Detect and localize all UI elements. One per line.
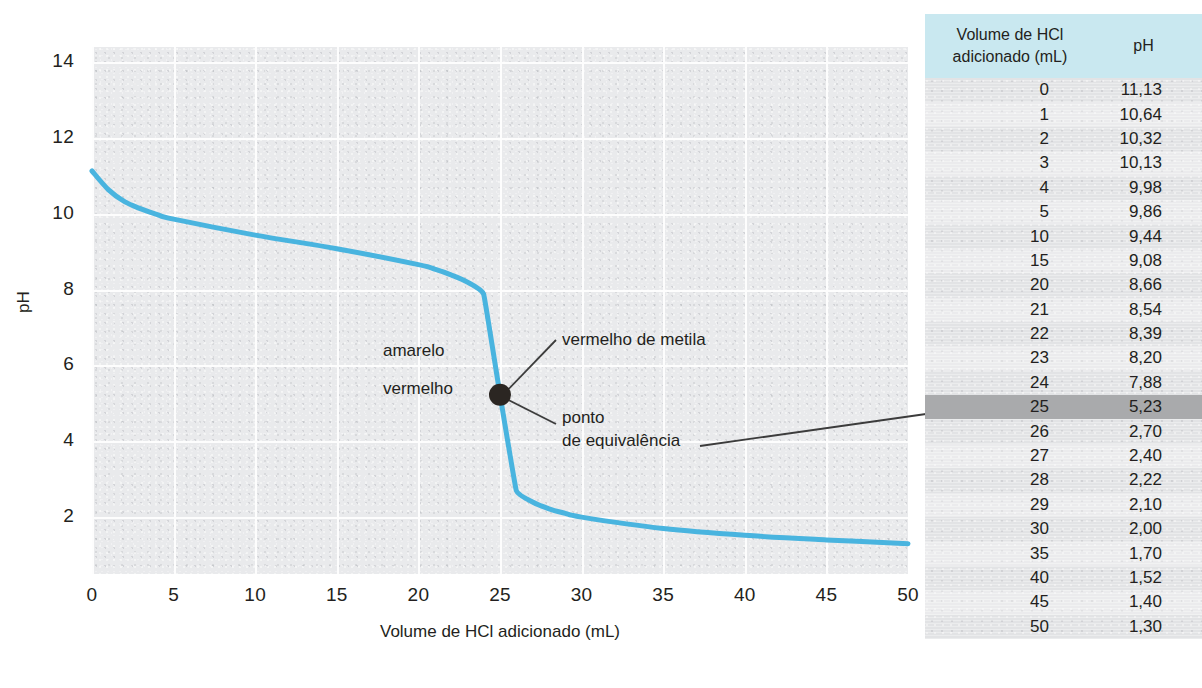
table-cell-ph: 10,13 (1093, 153, 1202, 173)
table-row[interactable]: 59,86 (925, 200, 1202, 224)
table-cell-ph: 9,08 (1093, 251, 1202, 271)
gridline-vertical (582, 47, 584, 574)
table-cell-ph: 2,40 (1093, 446, 1202, 466)
table-row[interactable]: 159,08 (925, 249, 1202, 273)
gridline-vertical (174, 47, 176, 574)
annotation-equivalence-line1: ponto (562, 408, 605, 427)
gridline-vertical (826, 47, 828, 574)
table-row[interactable]: 218,54 (925, 298, 1202, 322)
table-cell-ph: 8,66 (1093, 275, 1202, 295)
table-row[interactable]: 401,52 (925, 566, 1202, 590)
table-row[interactable]: 501,30 (925, 615, 1202, 639)
table-cell-volume: 40 (925, 568, 1093, 588)
table-row[interactable]: 302,00 (925, 517, 1202, 541)
table-cell-volume: 29 (925, 495, 1093, 515)
table-cell-volume: 26 (925, 422, 1093, 442)
x-tick-label: 50 (886, 584, 930, 606)
table-row[interactable]: 262,70 (925, 419, 1202, 443)
table-cell-ph: 9,86 (1093, 202, 1202, 222)
titration-figure: 1412108642 05101520253035404550 pH Volum… (0, 0, 1202, 688)
gridline-vertical (418, 47, 420, 574)
x-tick-label: 0 (70, 584, 114, 606)
table-row[interactable]: 011,13 (925, 78, 1202, 102)
table-cell-ph: 2,22 (1093, 470, 1202, 490)
y-tick-label: 8 (28, 278, 74, 300)
table-row[interactable]: 282,22 (925, 468, 1202, 492)
x-tick-label: 15 (315, 584, 359, 606)
x-tick-label: 45 (804, 584, 848, 606)
x-tick-label: 5 (152, 584, 196, 606)
table-cell-ph: 1,70 (1093, 544, 1202, 564)
table-cell-ph: 1,30 (1093, 617, 1202, 637)
gridline-horizontal (92, 290, 908, 292)
x-tick-label: 25 (478, 584, 522, 606)
table-cell-volume: 5 (925, 202, 1093, 222)
table-row[interactable]: 109,44 (925, 224, 1202, 248)
table-cell-ph: 10,32 (1093, 129, 1202, 149)
table-cell-ph: 7,88 (1093, 373, 1202, 393)
table-cell-volume: 28 (925, 470, 1093, 490)
table-row[interactable]: 210,32 (925, 127, 1202, 151)
gridline-vertical (500, 47, 502, 574)
table-row[interactable]: 208,66 (925, 273, 1202, 297)
table-row[interactable]: 238,20 (925, 346, 1202, 370)
table-cell-ph: 9,44 (1093, 227, 1202, 247)
x-tick-label: 10 (233, 584, 277, 606)
table-cell-ph: 9,98 (1093, 178, 1202, 198)
gridline-horizontal (92, 138, 908, 140)
table-header-volume: Volume de HCl adicionado (mL) (925, 24, 1091, 67)
table-cell-ph: 8,54 (1093, 300, 1202, 320)
table-cell-volume: 1 (925, 105, 1093, 125)
table-row[interactable]: 292,10 (925, 493, 1202, 517)
x-tick-label: 35 (641, 584, 685, 606)
y-tick-label: 14 (28, 50, 74, 72)
table-cell-volume: 20 (925, 275, 1093, 295)
gridline-vertical (663, 47, 665, 574)
table-row[interactable]: 351,70 (925, 541, 1202, 565)
table-row[interactable]: 272,40 (925, 444, 1202, 468)
table-cell-volume: 10 (925, 227, 1093, 247)
table-row[interactable]: 228,39 (925, 322, 1202, 346)
table-cell-volume: 22 (925, 324, 1093, 344)
table-row[interactable]: 310,13 (925, 151, 1202, 175)
y-tick-label: 6 (28, 353, 74, 375)
table-cell-volume: 25 (925, 397, 1093, 417)
table-body: 011,13110,64210,32310,1349,9859,86109,44… (925, 78, 1202, 639)
annotation-vermelho: vermelho (383, 378, 453, 401)
gridline-horizontal (92, 62, 908, 64)
table-cell-volume: 2 (925, 129, 1093, 149)
y-tick-label: 4 (28, 429, 74, 451)
table-cell-volume: 30 (925, 519, 1093, 539)
gridline-horizontal (92, 365, 908, 367)
table-cell-volume: 27 (925, 446, 1093, 466)
table-row[interactable]: 49,98 (925, 176, 1202, 200)
table-row[interactable]: 451,40 (925, 590, 1202, 614)
table-cell-volume: 23 (925, 348, 1093, 368)
table-cell-ph: 8,20 (1093, 348, 1202, 368)
annotation-methyl-red: vermelho de metila (562, 329, 706, 352)
table-cell-volume: 3 (925, 153, 1093, 173)
x-tick-label: 30 (560, 584, 604, 606)
gridline-vertical (92, 47, 94, 574)
annotation-amarelo: amarelo (383, 340, 444, 363)
table-row[interactable]: 247,88 (925, 371, 1202, 395)
gridline-vertical (255, 47, 257, 574)
y-axis-label: pH (14, 272, 34, 332)
table-cell-ph: 2,00 (1093, 519, 1202, 539)
y-tick-label: 12 (28, 126, 74, 148)
table-header-ph: pH (1091, 37, 1202, 55)
table-row[interactable]: 255,23 (925, 395, 1202, 419)
annotation-equivalence-point: ponto de equivalência (562, 407, 680, 453)
x-axis-label: Volume de HCl adicionado (mL) (92, 622, 908, 642)
table-cell-ph: 8,39 (1093, 324, 1202, 344)
y-tick-label: 2 (28, 505, 74, 527)
annotation-equivalence-line2: de equivalência (562, 431, 680, 450)
table-row[interactable]: 110,64 (925, 102, 1202, 126)
table-cell-volume: 24 (925, 373, 1093, 393)
table-header-row: Volume de HCl adicionado (mL) pH (925, 14, 1202, 78)
table-cell-ph: 10,64 (1093, 105, 1202, 125)
table-cell-volume: 4 (925, 178, 1093, 198)
gridline-vertical (745, 47, 747, 574)
gridline-vertical (337, 47, 339, 574)
gridline-horizontal (92, 441, 908, 443)
